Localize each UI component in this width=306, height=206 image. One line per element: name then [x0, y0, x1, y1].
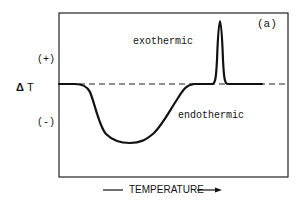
y-axis-label: ΔT: [16, 82, 34, 92]
exothermic-label: exothermic: [133, 37, 193, 47]
panel-label: (a): [257, 19, 277, 29]
arrow-right-icon: [215, 188, 222, 193]
endothermic-label: endothermic: [178, 111, 244, 121]
y-negative-label: (-): [37, 118, 55, 128]
x-axis-label: TEMPERATURE: [129, 185, 204, 195]
delta-icon: Δ: [16, 81, 24, 93]
y-positive-label: (+): [37, 55, 55, 65]
dta-chart: [0, 0, 306, 206]
